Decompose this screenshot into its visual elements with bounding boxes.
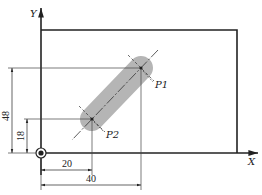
dimension-20: 20 xyxy=(41,158,92,170)
y-axis-label: Y xyxy=(30,8,38,19)
dim-40-label: 40 xyxy=(86,173,96,184)
x-axis-label: X xyxy=(247,156,256,167)
dimension-48: 48 xyxy=(0,68,12,153)
drawing-canvas: Y X 48 18 20 40 P1 xyxy=(0,0,262,195)
dimension-40: 40 xyxy=(41,173,141,185)
workpiece-outline xyxy=(41,30,237,153)
p1-label: P1 xyxy=(154,79,168,90)
dim-48-label: 48 xyxy=(0,111,11,121)
x-axis: X xyxy=(41,153,258,167)
origin-symbol xyxy=(36,148,46,158)
p2-label: P2 xyxy=(105,129,119,140)
dim-18-label: 18 xyxy=(15,131,26,141)
dim-20-label: 20 xyxy=(62,158,72,169)
dimension-18: 18 xyxy=(15,119,27,153)
